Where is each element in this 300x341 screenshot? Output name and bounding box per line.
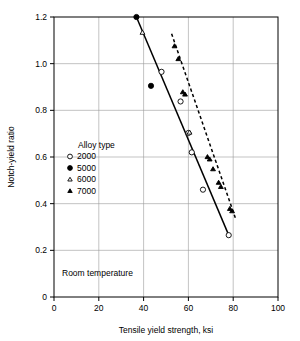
chart-figure: 020406080100 00.20.40.60.81.01.2 Tensile… [0, 0, 300, 341]
data-point-2000 [159, 69, 164, 74]
legend-label-6000: 6000 [77, 174, 96, 184]
data-point-7000 [216, 180, 221, 184]
y-axis-ticks: 00.20.40.60.81.01.2 [35, 12, 54, 302]
y-tick-label: 0.6 [35, 152, 47, 162]
legend-marker-6000 [68, 177, 72, 181]
x-tick-label: 80 [228, 303, 238, 313]
data-point-2000 [200, 187, 205, 192]
legend-title: Alloy type [78, 140, 115, 150]
legend-marker-2000 [68, 154, 73, 159]
x-tick-label: 60 [184, 303, 194, 313]
y-tick-label: 0.4 [35, 199, 47, 209]
legend-label-5000: 5000 [77, 163, 96, 173]
y-tick-label: 0 [42, 292, 47, 302]
y-tick-label: 1.2 [35, 12, 47, 22]
room-temperature-annotation: Room temperature [62, 268, 133, 278]
data-point-7000 [211, 167, 216, 171]
data-point-2000 [178, 99, 183, 104]
y-tick-label: 1.0 [35, 59, 47, 69]
y-axis-label: Notch-yield ratio [6, 126, 16, 188]
legend-marker-5000 [68, 166, 73, 171]
legend-marker-7000 [68, 189, 72, 193]
legend: Alloy type 2000500060007000 [68, 140, 116, 196]
y-tick-label: 0.8 [35, 105, 47, 115]
data-point-7000 [172, 44, 177, 48]
data-point-2000 [226, 233, 231, 238]
y-tick-label: 0.2 [35, 245, 47, 255]
x-tick-label: 100 [271, 303, 285, 313]
data-point-2000 [189, 150, 194, 155]
x-tick-label: 0 [52, 303, 57, 313]
solid-trend [136, 17, 228, 235]
x-axis-label: Tensile yield strength, ksi [119, 325, 214, 335]
legend-items: 2000500060007000 [68, 151, 97, 196]
trend-lines [136, 17, 235, 235]
data-point-5000 [148, 83, 153, 88]
scatter-plot: 020406080100 00.20.40.60.81.01.2 Tensile… [0, 0, 300, 341]
x-axis-ticks: 020406080100 [52, 297, 286, 313]
data-point-7000 [218, 184, 223, 188]
x-tick-label: 20 [94, 303, 104, 313]
data-point-6000 [140, 30, 145, 34]
legend-label-7000: 7000 [77, 186, 96, 196]
legend-label-2000: 2000 [77, 151, 96, 161]
data-point-5000 [134, 14, 139, 19]
x-tick-label: 40 [139, 303, 149, 313]
